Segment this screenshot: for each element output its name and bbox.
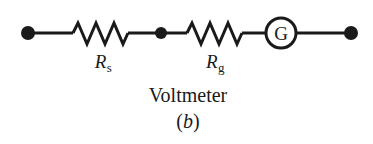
- galvanometer-resistance-label-subscript: g: [218, 60, 225, 75]
- right-terminal-dot: [344, 26, 358, 40]
- galvanometer-resistance-label-symbol: R: [206, 51, 218, 72]
- series-resistor-label: Rs: [95, 52, 112, 71]
- caption-letter: b: [183, 110, 193, 132]
- caption-close-paren: ): [193, 110, 200, 132]
- series-resistor-label-symbol: R: [95, 51, 107, 72]
- device-name-label: Voltmeter: [149, 85, 228, 105]
- caption-open-paren: (: [176, 110, 183, 132]
- galvanometer-resistance-symbol: [187, 23, 242, 44]
- middle-junction-dot: [155, 27, 167, 39]
- galvanometer-symbol-letter: G: [274, 23, 288, 44]
- galvanometer-resistance-label: Rg: [206, 52, 224, 71]
- series-resistor-label-subscript: s: [107, 60, 112, 75]
- series-resistor-symbol: [73, 23, 128, 44]
- left-terminal-dot: [21, 26, 35, 40]
- circuit-figure: G Rs Rg Voltmeter (b): [0, 0, 373, 144]
- figure-caption: (b): [176, 111, 199, 131]
